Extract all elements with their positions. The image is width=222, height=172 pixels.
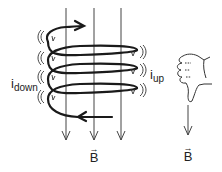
b-field-label-hand: → B xyxy=(181,145,195,163)
coil-turn-2 xyxy=(48,60,137,79)
thumb-down-hand-icon xyxy=(177,54,212,102)
i-up-label: iup xyxy=(150,66,164,84)
b-field-label-coil: → B xyxy=(87,146,101,164)
hand-field-arrow xyxy=(184,105,192,135)
coil-turn-1 xyxy=(48,42,137,60)
coil xyxy=(47,21,137,121)
coil-turn-3 xyxy=(48,79,137,99)
i-down-label: idown xyxy=(11,75,38,93)
diagram-canvas: idown iup → B → B xyxy=(0,0,222,172)
coil-bottom-lead xyxy=(48,99,112,117)
